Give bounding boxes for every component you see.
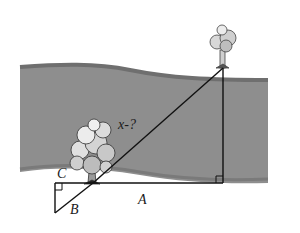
leg-a-label: A [138,193,147,207]
right-angle-marker-near [55,183,62,190]
far-bank-tree-icon [210,25,236,68]
diagram-svg [0,0,300,233]
diagram-canvas: x-? A B C [0,0,300,233]
leg-b-label: B [70,203,79,217]
leg-c-label: C [57,167,66,181]
hypotenuse-label: x-? [118,118,136,132]
